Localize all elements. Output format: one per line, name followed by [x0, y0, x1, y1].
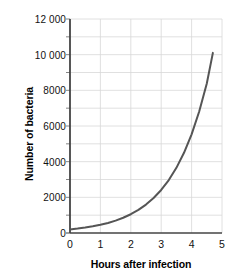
x-tick-label: 0 [67, 238, 73, 250]
y-tick-label: 4000 [43, 156, 66, 167]
x-tick-label: 4 [189, 238, 195, 250]
x-tick-label: 3 [158, 238, 164, 250]
y-tick-label: 0 [60, 228, 66, 239]
y-tick-label: 10 000 [35, 49, 66, 60]
y-tick-label: 6000 [43, 121, 66, 132]
y-axis-title: Number of bacteria [23, 44, 35, 224]
x-tick-label: 1 [97, 238, 103, 250]
x-tick-label: 2 [128, 238, 134, 250]
y-tick-label: 2000 [43, 192, 66, 203]
y-tick-label: 8000 [43, 85, 66, 96]
x-tick-label: 5 [219, 238, 225, 250]
bacteria-growth-chart: 0200040006000800010 00012 000 012345 Num… [0, 0, 240, 278]
plot-area [0, 0, 240, 278]
y-tick-label: 12 000 [35, 14, 66, 25]
x-axis-title: Hours after infection [56, 258, 226, 270]
horizontal-gridlines [70, 19, 222, 215]
